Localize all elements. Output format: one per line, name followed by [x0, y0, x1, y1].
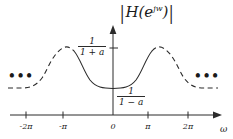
page-title: |H(ejw)|: [119, 3, 175, 22]
title-close-paren: ): [163, 3, 169, 21]
x-tick-label-2pi: 2π: [183, 123, 193, 131]
x-axis-label: ω: [220, 124, 227, 134]
upper-fraction-denominator: 1 + a: [78, 46, 106, 57]
x-axis-arrowhead: [213, 112, 222, 119]
x-tick-label-zero: 0: [110, 123, 115, 131]
x-tick-label-negpi: -π: [59, 123, 67, 131]
frequency-response-figure: |H(ejw)| 1 1 + a 1 1 − a -2π -π 0 π 2π ω…: [0, 0, 233, 139]
x-tick-label-neg2pi: -2π: [19, 123, 32, 131]
x-tick-label-pi: π: [145, 123, 150, 131]
title-exponent: jw: [153, 4, 162, 13]
ellipsis-right: •••: [194, 70, 220, 82]
ellipsis-left: •••: [8, 70, 34, 82]
title-bar-left: |: [120, 3, 125, 22]
y-axis-arrowhead: [110, 25, 117, 34]
upper-fraction-numerator: 1: [78, 36, 106, 46]
label-one-over-one-plus-a: 1 1 + a: [78, 36, 106, 58]
lower-fraction-denominator: 1 − a: [117, 96, 145, 107]
title-base: H(e: [125, 3, 153, 21]
lower-fraction-numerator: 1: [117, 86, 145, 96]
label-one-over-one-minus-a: 1 1 − a: [117, 86, 145, 108]
title-bar-right: |: [169, 3, 174, 22]
